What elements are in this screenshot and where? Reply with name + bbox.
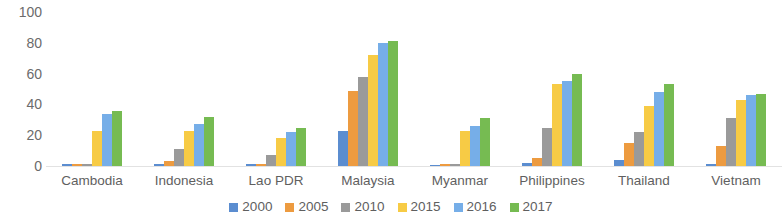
bar — [296, 128, 306, 167]
bar-group — [598, 0, 690, 166]
legend-label: 2000 — [242, 200, 272, 214]
bar — [532, 158, 542, 166]
y-axis-tick-label: 80 — [0, 36, 42, 50]
bar-group-bars — [430, 0, 491, 166]
bar-group — [230, 0, 322, 166]
bar-group-bars — [706, 0, 767, 166]
bar — [654, 92, 664, 166]
legend-label: 2017 — [523, 200, 553, 214]
legend-item[interactable]: 2005 — [285, 200, 328, 214]
x-axis-tick-label: Cambodia — [46, 170, 138, 192]
x-axis-tick-label: Lao PDR — [230, 170, 322, 192]
legend-swatch-icon — [341, 203, 350, 212]
bar — [358, 77, 368, 166]
legend-item[interactable]: 2017 — [510, 200, 553, 214]
bar — [644, 106, 654, 166]
bar — [102, 114, 112, 166]
legend-item[interactable]: 2015 — [398, 200, 441, 214]
legend-label: 2015 — [411, 200, 441, 214]
bar — [338, 131, 348, 166]
plot-area — [46, 0, 782, 167]
bar — [480, 118, 490, 166]
bar — [736, 100, 746, 166]
bar — [194, 124, 204, 166]
bar — [470, 126, 480, 166]
legend-swatch-icon — [454, 203, 463, 212]
y-axis-tick-label: 40 — [0, 97, 42, 111]
bar — [174, 149, 184, 166]
bar — [378, 43, 388, 166]
chart-legend: 200020052010201520162017 — [0, 197, 782, 217]
bar-group — [138, 0, 230, 166]
bar-group — [506, 0, 598, 166]
bar — [276, 138, 286, 166]
y-axis-tick-label: 60 — [0, 67, 42, 81]
x-axis-tick-label: Philippines — [506, 170, 598, 192]
bar-group-bars — [338, 0, 399, 166]
legend-item[interactable]: 2016 — [454, 200, 497, 214]
legend-label: 2005 — [298, 200, 328, 214]
bar — [204, 117, 214, 166]
bar — [552, 84, 562, 166]
bar — [348, 91, 358, 166]
bar-chart: 100806040200 CambodiaIndonesiaLao PDRMal… — [0, 0, 782, 221]
bar-group-bars — [246, 0, 307, 166]
bar — [388, 41, 398, 166]
legend-item[interactable]: 2010 — [341, 200, 384, 214]
bar — [572, 74, 582, 166]
bar — [664, 84, 674, 166]
y-axis-tick-label: 100 — [0, 5, 42, 19]
legend-item[interactable]: 2000 — [229, 200, 272, 214]
bar-group — [414, 0, 506, 166]
x-axis-tick-label: Thailand — [598, 170, 690, 192]
bar — [634, 132, 644, 166]
bar-group — [690, 0, 782, 166]
bar — [92, 131, 102, 166]
bar — [542, 128, 552, 167]
bar — [266, 155, 276, 166]
bar — [112, 111, 122, 166]
legend-swatch-icon — [285, 203, 294, 212]
bar — [624, 143, 634, 166]
legend-label: 2010 — [354, 200, 384, 214]
bar — [716, 146, 726, 166]
bar-groups — [46, 0, 782, 166]
x-axis-tick-label: Vietnam — [690, 170, 782, 192]
legend-label: 2016 — [467, 200, 497, 214]
bar — [756, 94, 766, 166]
x-axis-tick-label: Myanmar — [414, 170, 506, 192]
bar — [726, 118, 736, 166]
x-axis-tick-label: Indonesia — [138, 170, 230, 192]
bar-group-bars — [154, 0, 215, 166]
bar — [562, 81, 572, 166]
y-axis: 100806040200 — [0, 0, 42, 180]
x-axis-labels: CambodiaIndonesiaLao PDRMalaysiaMyanmarP… — [46, 170, 782, 192]
y-axis-tick-label: 0 — [0, 159, 42, 173]
bar-group — [46, 0, 138, 166]
legend-swatch-icon — [510, 203, 519, 212]
bar — [368, 55, 378, 166]
bar-group — [322, 0, 414, 166]
axis-baseline — [46, 166, 782, 167]
bar — [184, 131, 194, 166]
bar-group-bars — [614, 0, 675, 166]
bar-group-bars — [522, 0, 583, 166]
bar — [746, 95, 756, 166]
bar — [286, 132, 296, 166]
bar — [460, 131, 470, 166]
bar-group-bars — [62, 0, 123, 166]
x-axis-tick-label: Malaysia — [322, 170, 414, 192]
legend-swatch-icon — [229, 203, 238, 212]
legend-swatch-icon — [398, 203, 407, 212]
y-axis-tick-label: 20 — [0, 128, 42, 142]
